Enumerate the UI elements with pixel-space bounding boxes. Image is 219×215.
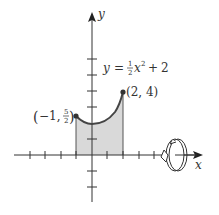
svg-text:2: 2 [161,61,169,75]
svg-text:2: 2 [64,117,68,125]
svg-text:=: = [114,61,124,75]
equation-label: y = 1 2 x 2 + 2 [102,60,169,77]
point-left-label: ( −1, 5 2 ) [33,108,74,125]
svg-text:1: 1 [128,60,132,68]
svg-text:−1,: −1, [39,109,61,123]
svg-text:): ) [69,109,74,125]
x-axis-label: x [195,158,202,172]
svg-text:x: x [134,61,141,75]
revolution-diagram: y x y = 1 2 x 2 + 2 ( −1, 5 2 ) (2, 4) [0,0,219,215]
svg-text:2: 2 [128,69,132,77]
svg-text:5: 5 [64,108,68,116]
point-right-label: (2, 4) [126,85,158,99]
svg-text:(: ( [33,109,38,125]
point-right-dot [120,89,125,94]
y-axis-label: y [97,7,105,21]
svg-text:y: y [102,61,110,75]
rotation-arrow-icon [161,139,197,171]
svg-text:+: + [148,61,158,75]
svg-text:2: 2 [141,60,145,68]
